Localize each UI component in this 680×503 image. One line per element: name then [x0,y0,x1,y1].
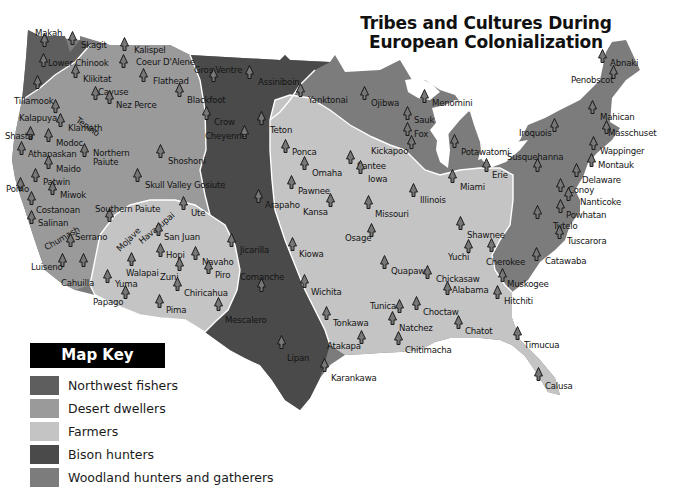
tribe-label: Walapai [126,268,159,278]
tribe-label: Tunica [370,301,396,311]
arrowhead-marker-icon [443,281,452,295]
tribe-label: Southern Paiute [95,204,160,214]
tribe-label: Cherokee [486,257,525,267]
arrowhead-marker-icon [487,238,496,252]
tribe-label: Coeur D'Alene [136,57,195,67]
arrowhead-marker-icon [360,86,369,100]
arrowhead-marker-icon [555,225,564,239]
arrowhead-marker-icon [66,233,75,247]
tribe-label: Mescalero [225,315,267,325]
tribe-label: Penobscot [571,75,613,85]
tribe-label: Gros Ventre [194,65,242,75]
arrowhead-marker-icon [27,191,36,205]
arrowhead-marker-icon [448,169,457,183]
tribe-label: Kansa [303,207,328,217]
legend-swatch [30,468,59,487]
arrowhead-marker-icon [388,311,397,325]
tribe-label: Kalispel [134,45,166,55]
tribe-label: Luiseno [31,262,63,272]
tribe-label: Atakapa [327,341,361,351]
arrowhead-marker-icon [326,193,335,207]
tribe-label: Arapaho [265,200,300,210]
tribe-label: Crow [214,117,235,127]
arrowhead-marker-icon [202,106,211,120]
arrowhead-marker-icon [139,68,148,82]
tribe-label: Ute [191,208,205,218]
arrowhead-marker-icon [533,205,542,219]
tribe-label: Salinan [38,218,68,228]
tribe-label: Ojibwa [371,98,399,108]
tribe-label: Lipan [287,353,309,363]
tribe-label: Tillamook [14,96,53,106]
tribe-label: Montauk [598,160,634,170]
legend-item-farmers: Farmers [30,420,274,443]
tribe-label: Klamath [68,123,102,133]
arrowhead-marker-icon [119,54,128,68]
tribe-label: Delaware [582,175,621,185]
arrowhead-marker-icon [356,160,365,174]
tribe-label: Sauk [414,115,434,125]
arrowhead-marker-icon [564,187,573,201]
map-title-line1: Tribes and Cultures During [336,14,636,33]
tribe-label: Chatot [465,326,493,336]
arrowhead-marker-icon [277,335,286,349]
arrowhead-marker-icon [257,111,266,125]
tribe-label: San Juan [164,232,200,242]
tribe-label: Comanche [240,272,284,282]
arrowhead-marker-icon [493,285,502,299]
arrowhead-marker-icon [287,175,296,189]
tribe-label: Tonkawa [333,318,368,328]
tribe-label: Natchez [399,323,433,333]
arrowhead-marker-icon [154,222,163,236]
arrowhead-marker-icon [175,257,184,271]
arrowhead-marker-icon [498,268,507,282]
arrowhead-marker-icon [155,294,164,308]
arrowhead-marker-icon [300,156,309,170]
tribe-label: Wichita [311,287,342,297]
arrowhead-marker-icon [322,306,331,320]
arrowhead-marker-icon [532,247,541,261]
arrowhead-marker-icon [556,199,565,213]
tribe-label: Calusa [545,381,573,391]
tribe-label: Karankawa [331,373,377,383]
tribe-label: Klikitat [83,74,111,84]
arrowhead-marker-icon [31,168,40,182]
arrowhead-marker-icon [80,143,89,157]
arrowhead-marker-icon [403,106,412,120]
tribe-label: Teton [270,125,292,135]
map-key: Map Key Northwest fishers Desert dweller… [30,343,274,489]
arrowhead-marker-icon [48,181,57,195]
tribe-label: Omaha [312,168,342,178]
tribe-label: Masschuset [608,128,656,138]
arrowhead-marker-icon [450,134,459,148]
tribe-label: Wappinger [600,146,644,156]
legend-label: Bison hunters [68,447,154,462]
tribe-label: Powhatan [566,210,606,220]
tribe-label: Paiute [93,157,118,167]
tribe-label: Osage [345,233,371,243]
legend-item-northwest-fishers: Northwest fishers [30,374,274,397]
arrowhead-marker-icon [56,113,65,127]
tribe-label: Shoshoni [168,156,206,166]
tribe-label: Shasta [5,131,33,141]
tribe-label: Yanktonai [308,95,348,105]
arrowhead-marker-icon [120,37,129,51]
legend-label: Desert dwellers [68,401,166,416]
tribe-label: Piro [215,270,230,280]
tribe-label: Catawaba [545,256,586,266]
arrowhead-marker-icon [245,65,254,79]
arrowhead-marker-icon [227,233,236,247]
arrowhead-marker-icon [127,252,136,266]
tribe-label: Costanoan [36,205,80,215]
tribe-label: Skagit [81,40,107,50]
legend-label: Farmers [68,424,118,439]
arrowhead-marker-icon [79,253,88,267]
arrowhead-marker-icon [454,315,463,329]
arrowhead-marker-icon [456,216,465,230]
tribe-label: Miwok [60,190,86,200]
arrowhead-marker-icon [403,122,412,136]
arrowhead-marker-icon [423,265,432,279]
tribe-label: Illinois [420,195,446,205]
arrowhead-marker-icon [44,155,53,169]
arrowhead-marker-icon [588,100,597,114]
